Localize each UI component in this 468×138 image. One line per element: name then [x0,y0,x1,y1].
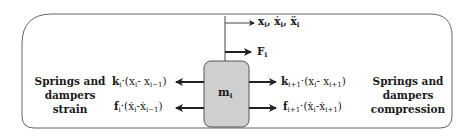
right-group-line-3: compression [366,102,450,116]
left-group-line-1: Springs and [30,74,110,88]
left-group-line-3: strain [30,102,110,116]
force-label: Fi [257,45,267,59]
right-group-label: Springs and dampers compression [366,74,450,116]
right-spring-term: ki+1·(xi- xi+1) [281,75,346,89]
right-damper-term: fi+1·(ẋi-ẋi+1) [283,100,342,114]
kinematics-label: xi, ẋi, ẍi [258,15,299,29]
right-group-line-1: Springs and [366,74,450,88]
diagram-canvas [0,0,468,138]
right-group-line-2: dampers [366,88,450,102]
left-group-line-2: dampers [30,88,110,102]
left-group-label: Springs and dampers strain [30,74,110,116]
mass-label: mi [218,86,232,100]
left-spring-term: ki·(xi- xi−1) [112,75,167,89]
left-damper-term: fi·(ẋi-ẋi−1) [114,100,163,114]
